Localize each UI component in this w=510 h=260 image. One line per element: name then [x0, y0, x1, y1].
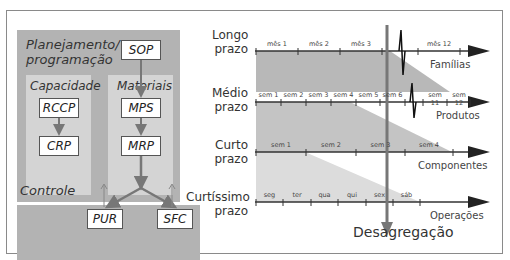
axis-arrow-long [468, 45, 490, 57]
axis-arrow-short [468, 146, 490, 158]
horizon-short-line1: Curto [212, 138, 248, 152]
tick-label: qua [311, 191, 338, 199]
tick-label: sem 12 [447, 91, 471, 107]
axis-name-components: Componentes [418, 160, 487, 171]
horizon-short-label: Curto prazo [212, 138, 248, 166]
tick-label: sem 5 [356, 91, 381, 99]
tick-label: ter [283, 191, 311, 199]
band-long-to-medium [256, 51, 450, 92]
horizon-long-line2: prazo [212, 42, 248, 56]
horizon-short-line2: prazo [212, 152, 248, 166]
tick-label: qui [338, 191, 366, 199]
tick-label: sem 1 [256, 91, 281, 99]
axis-arrow-medium [468, 96, 490, 108]
tick-label: mês 2 [298, 40, 340, 48]
tick-label: sem 4 [405, 141, 453, 149]
tick-label: mês 12 [418, 40, 460, 48]
horizon-veryshort-line1: Curtíssimo [186, 190, 248, 204]
tick-label: sem 2 [306, 141, 356, 149]
tick-label: sáb [393, 191, 420, 199]
horizon-long-label: Longo prazo [212, 28, 248, 56]
horizon-medium-label: Médio prazo [212, 86, 248, 114]
horizon-veryshort-label: Curtíssimo prazo [186, 190, 248, 218]
axis-name-families: Famílias [430, 59, 470, 70]
tick-label: sem 3 [356, 141, 405, 149]
tick-label: sem 3 [306, 91, 331, 99]
horizon-bands [0, 0, 510, 260]
tick-label: sem 2 [281, 91, 306, 99]
axis-name-operations: Operações [430, 210, 484, 221]
horizon-medium-line1: Médio [212, 86, 248, 100]
tick-label: sex [366, 191, 393, 199]
tick-label: mês 1 [256, 40, 298, 48]
axis-name-products: Produtos [436, 110, 480, 121]
tick-label: seg [256, 191, 283, 199]
tick-label: sem 1 [256, 141, 306, 149]
tick-label: sem 6 [380, 91, 405, 99]
horizon-veryshort-line2: prazo [186, 204, 248, 218]
tick-label: sem 11 [423, 91, 447, 107]
horizon-medium-line2: prazo [212, 100, 248, 114]
horizon-long-line1: Longo [212, 28, 248, 42]
disaggregation-label: Desagregação [353, 224, 454, 240]
axis-arrow-veryshort [468, 196, 490, 208]
tick-label: mês 3 [340, 40, 382, 48]
tick-label: sem 4 [331, 91, 356, 99]
